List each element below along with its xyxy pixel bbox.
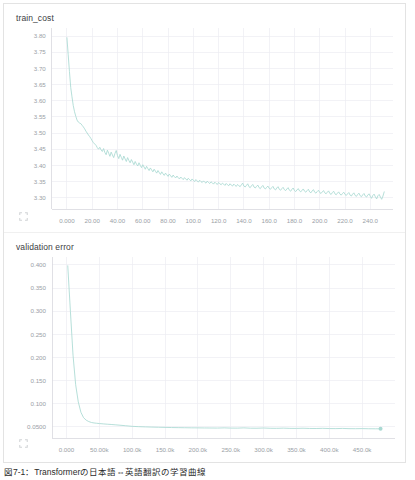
chart-train-cost[interactable]: 3.803.753.703.653.603.553.503.453.403.35… <box>4 4 405 232</box>
svg-text:0.400: 0.400 <box>31 261 47 268</box>
svg-text:3.50: 3.50 <box>34 129 47 136</box>
svg-text:0.100: 0.100 <box>31 400 47 407</box>
svg-text:3.55: 3.55 <box>34 113 47 120</box>
svg-text:220.0: 220.0 <box>337 217 353 224</box>
svg-text:450.0k: 450.0k <box>353 446 372 453</box>
svg-text:0.000: 0.000 <box>59 446 75 453</box>
chart-validation-error[interactable]: 0.4000.3500.3000.2500.2000.1500.1000.050… <box>4 233 406 461</box>
svg-text:250.0k: 250.0k <box>221 446 240 453</box>
figure-caption: 図7-1：Transformerの日本語⇔英語翻訳の学習曲線 <box>4 466 409 478</box>
svg-text:180.0: 180.0 <box>287 217 303 224</box>
svg-text:350.0k: 350.0k <box>287 446 306 453</box>
svg-text:80.00: 80.00 <box>160 217 176 224</box>
svg-text:3.80: 3.80 <box>34 32 47 39</box>
expand-icon[interactable] <box>19 439 28 448</box>
svg-text:3.70: 3.70 <box>34 65 47 72</box>
svg-text:3.65: 3.65 <box>34 81 47 88</box>
svg-text:100.0: 100.0 <box>186 217 202 224</box>
svg-text:120.0: 120.0 <box>211 217 227 224</box>
svg-text:150.0k: 150.0k <box>156 446 175 453</box>
svg-text:60.00: 60.00 <box>135 217 151 224</box>
svg-text:3.75: 3.75 <box>34 48 47 55</box>
chart-block-validation-error: validation error 0.4000.3500.3000.2500.2… <box>4 233 406 461</box>
svg-text:0.0500: 0.0500 <box>27 423 46 430</box>
svg-text:3.35: 3.35 <box>34 178 47 185</box>
expand-icon[interactable] <box>19 212 28 221</box>
svg-text:0.350: 0.350 <box>31 284 47 291</box>
svg-text:0.250: 0.250 <box>31 331 47 338</box>
svg-text:160.0: 160.0 <box>261 217 277 224</box>
svg-text:100.0k: 100.0k <box>123 446 142 453</box>
chart-block-train-cost: train_cost 3.803.753.703.653.603.553.503… <box>4 4 405 232</box>
svg-text:400.0k: 400.0k <box>320 446 339 453</box>
svg-text:20.00: 20.00 <box>85 217 101 224</box>
svg-text:300.0k: 300.0k <box>254 446 273 453</box>
charts-panel: train_cost 3.803.753.703.653.603.553.503… <box>3 3 406 463</box>
svg-text:200.0: 200.0 <box>312 217 328 224</box>
svg-text:3.40: 3.40 <box>34 162 47 169</box>
screenshot-root: train_cost 3.803.753.703.653.603.553.503… <box>0 0 415 480</box>
svg-text:3.45: 3.45 <box>34 145 47 152</box>
svg-text:3.30: 3.30 <box>34 194 47 201</box>
svg-text:50.00k: 50.00k <box>90 446 109 453</box>
svg-text:0.000: 0.000 <box>59 217 75 224</box>
svg-text:3.60: 3.60 <box>34 97 47 104</box>
svg-text:0.300: 0.300 <box>31 307 47 314</box>
svg-text:200.0k: 200.0k <box>189 446 208 453</box>
svg-text:140.0: 140.0 <box>236 217 252 224</box>
svg-text:40.00: 40.00 <box>110 217 126 224</box>
svg-text:0.200: 0.200 <box>31 354 47 361</box>
svg-text:240.0: 240.0 <box>363 217 379 224</box>
svg-text:0.150: 0.150 <box>31 377 47 384</box>
